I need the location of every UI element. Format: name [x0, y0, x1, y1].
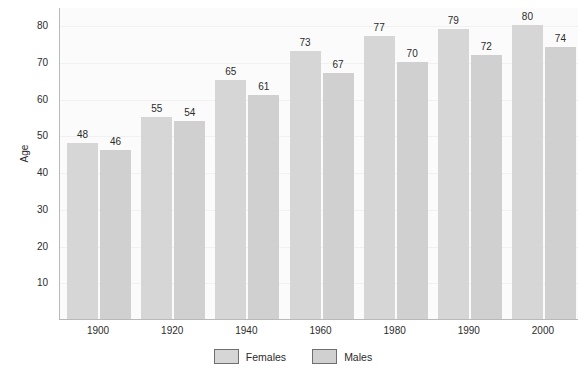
bar-males-1920[interactable] [174, 121, 205, 319]
bar-females-1940[interactable] [215, 80, 246, 319]
bar-males-2000[interactable] [545, 47, 576, 319]
bar-males-1940[interactable] [248, 95, 279, 319]
bar-males-1900[interactable] [100, 150, 131, 319]
y-axis-tick-label: 80 [0, 21, 48, 31]
y-axis-tick-label: 30 [0, 205, 48, 215]
x-axis-tick-label: 1900 [58, 325, 138, 336]
y-axis-tick-label: 60 [0, 95, 48, 105]
y-axis-title: Age [19, 124, 30, 184]
x-axis-tick-label: 1960 [281, 325, 361, 336]
legend-swatch-icon [312, 349, 337, 364]
y-axis-tick-label: 10 [0, 278, 48, 288]
x-axis-tick-label: 1920 [132, 325, 212, 336]
bar-value-label: 70 [395, 49, 429, 59]
bar-males-1980[interactable] [397, 62, 428, 319]
bar-females-1980[interactable] [364, 36, 395, 319]
bar-value-label: 55 [140, 104, 174, 114]
bar-value-label: 77 [362, 23, 396, 33]
bar-value-label: 54 [173, 108, 207, 118]
y-axis-tick-label: 70 [0, 58, 48, 68]
plot-area: 4846555465617367777079728074 [59, 8, 578, 320]
x-axis-tick-label: 2000 [503, 325, 583, 336]
legend-swatch-icon [214, 349, 239, 364]
bar-females-1920[interactable] [141, 117, 172, 319]
bar-value-label: 61 [247, 82, 281, 92]
bar-value-label: 46 [99, 137, 133, 147]
bar-females-2000[interactable] [512, 25, 543, 319]
bar-males-1990[interactable] [471, 55, 502, 319]
bar-females-1960[interactable] [290, 51, 321, 319]
legend-item-males[interactable]: Males [312, 349, 372, 364]
legend-item-females[interactable]: Females [214, 349, 286, 364]
legend-label: Females [246, 351, 286, 363]
bar-value-label: 72 [469, 42, 503, 52]
y-axis-tick-label: 20 [0, 242, 48, 252]
bar-value-label: 48 [66, 130, 100, 140]
x-axis-tick-label: 1940 [206, 325, 286, 336]
legend-label: Males [344, 351, 372, 363]
chart-figure: 4846555465617367777079728074 10203040506… [0, 0, 586, 387]
bar-value-label: 73 [288, 38, 322, 48]
x-axis-tick-label: 1980 [355, 325, 435, 336]
gridline [60, 26, 578, 27]
legend: FemalesMales [0, 349, 586, 364]
bar-value-label: 67 [321, 60, 355, 70]
bar-females-1990[interactable] [438, 29, 469, 319]
bar-value-label: 65 [214, 67, 248, 77]
bar-value-label: 74 [543, 34, 577, 44]
bar-males-1960[interactable] [323, 73, 354, 319]
bar-value-label: 80 [510, 12, 544, 22]
x-axis-tick-label: 1990 [429, 325, 509, 336]
bar-females-1900[interactable] [67, 143, 98, 319]
bar-value-label: 79 [436, 16, 470, 26]
